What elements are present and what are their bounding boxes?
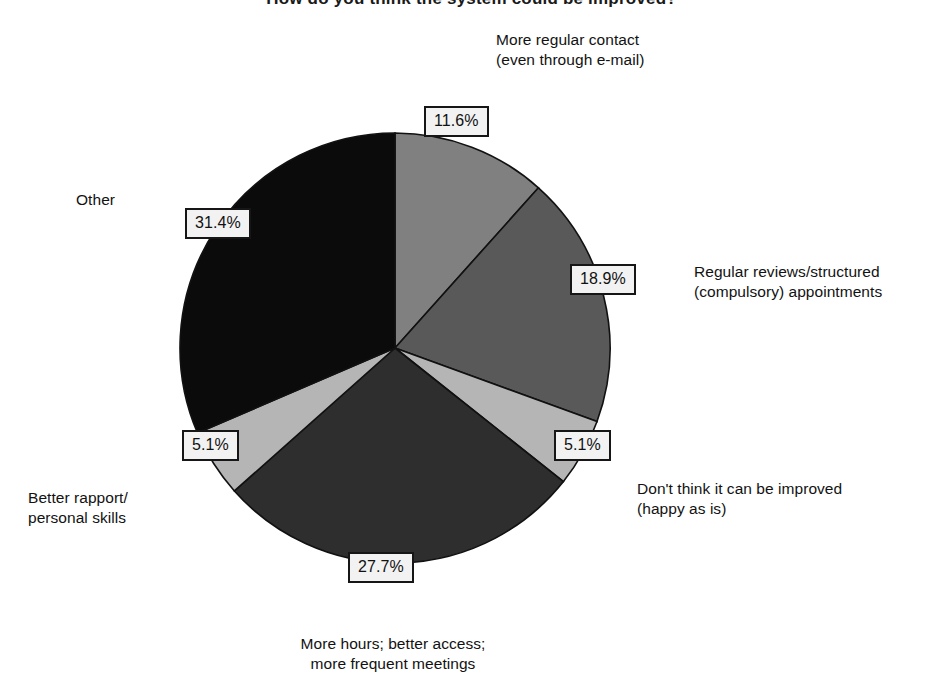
value-box-other: 31.4%	[185, 208, 251, 239]
pie-chart-figure: How do you think the system could be imp…	[0, 0, 943, 690]
value-box-better-rapport: 5.1%	[182, 430, 239, 461]
slice-label-not-improved: Don't think it can be improved (happy as…	[637, 479, 937, 518]
pie-chart-graphic	[0, 0, 943, 690]
slice-label-better-rapport: Better rapport/ personal skills	[28, 488, 213, 527]
value-box-more-regular-contact: 11.6%	[424, 106, 489, 137]
slice-label-regular-reviews: Regular reviews/structured (compulsory) …	[694, 262, 943, 301]
slice-label-more-regular-contact: More regular contact (even through e-mai…	[496, 30, 746, 69]
slice-label-more-hours: More hours; better access; more frequent…	[243, 634, 543, 673]
value-box-more-hours: 27.7%	[348, 552, 414, 583]
value-box-not-improved: 5.1%	[554, 430, 611, 461]
value-box-regular-reviews: 18.9%	[570, 264, 636, 295]
pie-slice-group	[180, 133, 610, 563]
slice-label-other: Other	[76, 190, 176, 210]
